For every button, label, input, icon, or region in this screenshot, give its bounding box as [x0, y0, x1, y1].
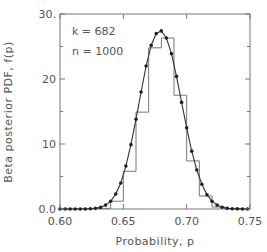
data-point-marker [241, 207, 245, 211]
data-point-marker [180, 101, 184, 105]
data-point-marker [119, 181, 123, 185]
histogram-steps [98, 38, 237, 209]
data-point-marker [114, 192, 118, 196]
y-tick-label: 20 [42, 73, 56, 86]
data-point-marker [215, 203, 219, 207]
data-point-marker [200, 183, 204, 187]
data-point-marker [160, 29, 164, 33]
beta-pdf-chart: 0.600.650.700.750.0102030. k = 682 n = 1… [0, 0, 267, 252]
data-point-marker [78, 207, 82, 211]
data-point-marker [175, 75, 179, 79]
data-point-marker [205, 193, 209, 197]
data-point-marker [195, 168, 199, 172]
data-point-marker [149, 43, 153, 47]
data-point-marker [104, 203, 108, 207]
y-tick-label: 10 [42, 138, 56, 151]
x-tick-label: 0.65 [111, 215, 136, 228]
annotation-k: k = 682 [72, 25, 116, 38]
y-tick-label: 30. [39, 8, 57, 21]
data-point-marker [170, 52, 174, 56]
data-point-marker [84, 207, 88, 211]
x-tick-label: 0.75 [238, 215, 263, 228]
plot-frame [60, 14, 250, 209]
data-point-marker [109, 199, 113, 203]
data-point-marker [165, 36, 169, 40]
data-point-marker [73, 207, 77, 211]
data-point-marker [190, 149, 194, 153]
data-point-marker [124, 164, 128, 168]
data-point-marker [230, 207, 234, 211]
x-axis-label: Probability, p [115, 235, 194, 248]
x-tick-label: 0.70 [174, 215, 199, 228]
axes-box [60, 14, 250, 209]
data-point-marker [139, 90, 143, 94]
data-point-marker [220, 205, 224, 209]
data-point-marker [89, 207, 93, 211]
histogram-path [98, 38, 237, 209]
annotation-n: n = 1000 [72, 45, 123, 58]
data-point-marker [225, 206, 229, 210]
data-point-marker [134, 118, 138, 122]
data-point-marker [99, 206, 103, 210]
data-point-marker [129, 143, 133, 147]
data-point-marker [68, 207, 72, 211]
y-axis-label: Beta posterior PDF, f(p) [2, 41, 15, 183]
data-point-marker [144, 64, 148, 68]
data-point-marker [154, 32, 158, 36]
data-point-marker [94, 207, 98, 211]
tick-labels: 0.600.650.700.750.0102030. [39, 8, 263, 228]
y-tick-label: 0.0 [39, 203, 57, 216]
data-point-marker [236, 207, 240, 211]
x-tick-label: 0.60 [48, 215, 73, 228]
data-point-marker [210, 199, 214, 203]
data-point-marker [185, 126, 189, 130]
axis-ticks [60, 14, 250, 209]
